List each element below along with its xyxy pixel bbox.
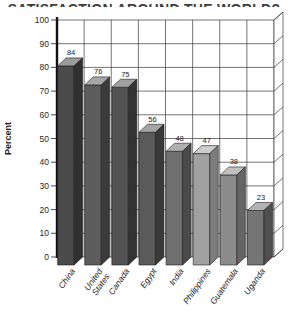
bar-value-label: 23 — [257, 193, 265, 202]
svg-text:Egypt: Egypt — [138, 266, 159, 290]
y-tick-label: 50 — [40, 134, 50, 144]
bar-philippines: 47 — [193, 136, 218, 265]
y-tick-label: 0 — [44, 252, 49, 262]
bar-egypt: 56 — [139, 115, 164, 265]
y-tick-label: 80 — [40, 62, 50, 72]
bar-value-label: 76 — [94, 67, 102, 76]
bar-chart: 0102030405060708090100Percent84767556484… — [0, 0, 288, 330]
bar-china: 84 — [58, 48, 83, 265]
bar-value-label: 75 — [121, 70, 129, 79]
x-axis-labels: ChinaUnitedStatesCanadaEgyptIndiaPhilipp… — [56, 266, 267, 306]
cropped-title: SATISFACTION AROUND THE WORLD? — [0, 0, 288, 7]
right-3d-wall — [274, 12, 283, 257]
bar-uganda: 23 — [247, 193, 272, 265]
bar-value-label: 38 — [230, 157, 238, 166]
y-tick-label: 20 — [40, 205, 50, 215]
y-axis-title-text: Percent — [3, 122, 13, 155]
x-label-egypt: Egypt — [138, 266, 159, 290]
bar-value-label: 47 — [203, 136, 211, 145]
x-label-canada: Canada — [106, 266, 131, 296]
bar-india: 48 — [166, 134, 191, 265]
y-axis-title: Percent — [3, 122, 13, 155]
y-tick-label: 70 — [40, 86, 50, 96]
svg-text:China: China — [56, 266, 77, 290]
bar-value-label: 84 — [67, 48, 75, 57]
cropped-title-text: SATISFACTION AROUND THE WORLD? — [8, 1, 281, 7]
x-label-india: India — [167, 266, 186, 287]
bar-value-label: 48 — [175, 134, 183, 143]
y-tick-label: 90 — [40, 39, 50, 49]
y-tick-label: 30 — [40, 181, 50, 191]
bar-united-states: 76 — [85, 67, 110, 265]
svg-text:Canada: Canada — [106, 266, 131, 296]
y-tick-label: 100 — [35, 15, 49, 25]
y-tick-label: 10 — [40, 228, 50, 238]
svg-text:India: India — [167, 266, 186, 287]
x-label-uganda: Uganda — [242, 266, 267, 296]
x-label-china: China — [56, 266, 77, 290]
figure-page: SATISFACTION AROUND THE WORLD? 010203040… — [0, 0, 288, 330]
svg-text:Uganda: Uganda — [242, 266, 267, 296]
y-tick-label: 40 — [40, 157, 50, 167]
bar-value-label: 56 — [148, 115, 156, 124]
y-tick-label: 60 — [40, 110, 50, 120]
y-axis-labels: 0102030405060708090100 — [35, 15, 57, 262]
bar-guatemala: 38 — [220, 157, 245, 265]
bars: 8476755648473823 — [58, 48, 273, 265]
bar-canada: 75 — [112, 70, 137, 265]
